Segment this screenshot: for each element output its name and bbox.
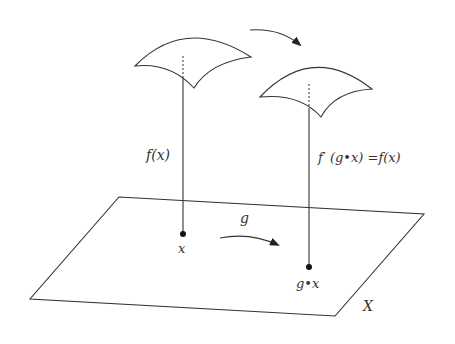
label-fiber-right: f′ (g•x) =f(x) (317, 150, 401, 165)
top-arrow-icon (250, 30, 300, 45)
point-gx (306, 264, 312, 270)
action-arrow-icon (220, 236, 278, 245)
label-action-g: g (240, 210, 249, 226)
right-fiber-surface (260, 67, 372, 117)
point-x (180, 231, 186, 237)
label-fiber-left: f(x) (145, 147, 170, 163)
diagram-canvas: f(x) f′ (g•x) =f(x) x g•x g X (0, 0, 455, 344)
label-point-gx: g•x (296, 276, 320, 291)
left-fiber-surface (135, 38, 251, 88)
label-space-X: X (362, 298, 374, 314)
label-point-x: x (178, 241, 186, 256)
